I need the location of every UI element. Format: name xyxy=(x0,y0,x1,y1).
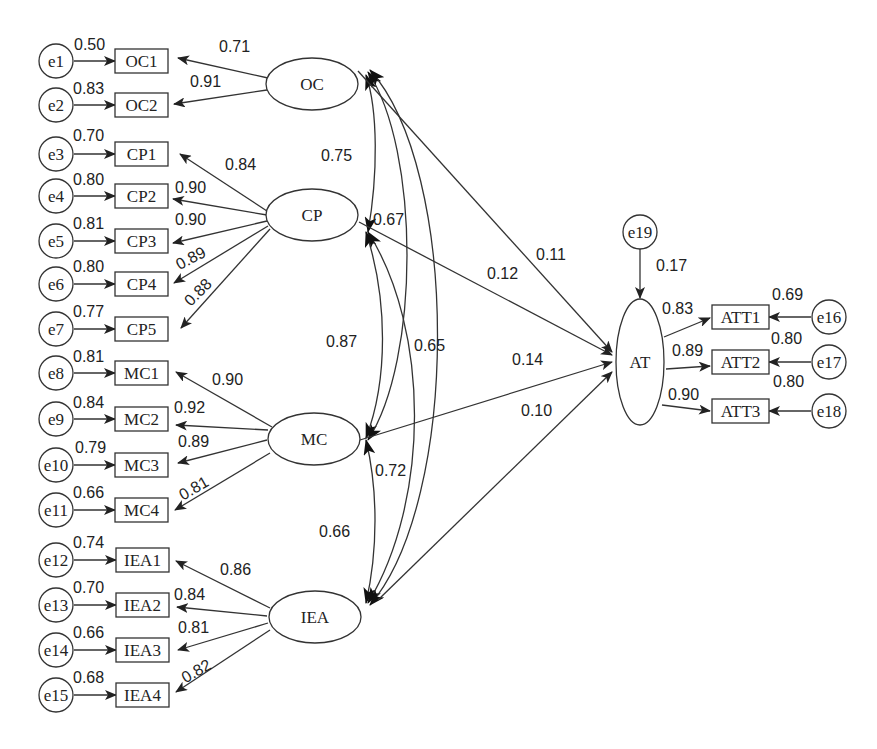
latent-cp: CP xyxy=(266,189,358,241)
error-node: e8 xyxy=(39,356,73,390)
error-node: e16 xyxy=(812,300,846,334)
loading-label: 0.82 xyxy=(179,656,215,686)
error-node: e9 xyxy=(39,402,73,436)
indicator-cp1: CP1 xyxy=(115,142,168,166)
loading-mc-mc2 xyxy=(176,425,268,430)
latent-iea: IEA xyxy=(269,591,361,643)
svg-text:ATT2: ATT2 xyxy=(721,353,761,372)
indicator-cp4: CP4 xyxy=(115,272,168,296)
indicators-right: ATT1 ATT2 ATT3 xyxy=(712,305,769,423)
corr-cp-mc xyxy=(366,232,383,438)
sem-diagram: e1 e2 e3 e4 e5 e6 e7 e8 e9 e10 e11 e12 e… xyxy=(0,0,877,749)
indicator-iea2: IEA2 xyxy=(116,593,169,617)
correlation-label: 0.65 xyxy=(414,337,445,354)
error-node: e5 xyxy=(39,224,73,258)
corr-oc-mc xyxy=(368,72,407,440)
svg-text:IEA2: IEA2 xyxy=(124,596,161,615)
indicator-oc1: OC1 xyxy=(115,49,168,73)
indicator-cp3: CP3 xyxy=(115,229,168,253)
r2-label: 0.84 xyxy=(73,394,104,411)
error-node: e12 xyxy=(39,543,73,577)
correlation-label: 0.75 xyxy=(321,147,352,164)
error-terms-left: e1 e2 e3 e4 e5 e6 e7 e8 e9 e10 e11 e12 e… xyxy=(39,44,73,712)
indicator-mc3: MC3 xyxy=(115,453,168,477)
loading-label: 0.90 xyxy=(175,211,206,228)
latent-oc: OC xyxy=(266,58,358,110)
error-node: e6 xyxy=(39,267,73,301)
loading-label: 0.89 xyxy=(178,433,209,450)
path-cp-at xyxy=(359,222,612,355)
loading-label: 0.81 xyxy=(178,619,209,636)
loading-labels-left: 0.71 0.91 0.84 0.90 0.90 0.89 0.88 0.90 … xyxy=(173,38,256,686)
loading-label: 0.89 xyxy=(173,243,209,273)
path-labels: 0.11 0.12 0.14 0.10 xyxy=(487,246,566,419)
r2-label: 0.70 xyxy=(73,127,104,144)
correlation-label: 0.66 xyxy=(319,523,350,540)
path-iea-at xyxy=(378,372,612,600)
r2-label: 0.81 xyxy=(73,348,104,365)
svg-text:e14: e14 xyxy=(44,641,69,660)
svg-text:e2: e2 xyxy=(48,96,64,115)
svg-text:CP3: CP3 xyxy=(127,232,156,251)
corr-oc-cp xyxy=(366,75,375,232)
svg-text:e3: e3 xyxy=(48,145,64,164)
r2-label: 0.74 xyxy=(73,534,104,551)
svg-text:e18: e18 xyxy=(817,402,842,421)
r2-label: 0.81 xyxy=(73,215,104,232)
svg-text:e1: e1 xyxy=(48,52,64,71)
loading-label: 0.88 xyxy=(181,275,215,309)
r2-label: 0.66 xyxy=(73,624,104,641)
error-node: e4 xyxy=(39,179,73,213)
loading-label: 0.91 xyxy=(190,73,221,90)
corr-mc-iea xyxy=(366,440,375,603)
r2-label: 0.77 xyxy=(73,303,104,320)
path-label: 0.10 xyxy=(521,402,552,419)
svg-text:MC2: MC2 xyxy=(124,410,159,429)
svg-text:e6: e6 xyxy=(48,275,64,294)
latent-mc: MC xyxy=(268,413,360,465)
indicator-att2: ATT2 xyxy=(712,350,769,374)
svg-text:e15: e15 xyxy=(44,686,69,705)
error-node: e15 xyxy=(39,678,73,712)
structural-paths xyxy=(358,71,640,600)
r2-label: 0.80 xyxy=(73,171,104,188)
path-label: 0.14 xyxy=(512,351,543,368)
svg-text:AT: AT xyxy=(630,353,651,372)
error-node: e3 xyxy=(39,137,73,171)
loading-at-att1 xyxy=(664,318,710,337)
error-node: e2 xyxy=(39,88,73,122)
indicator-att1: ATT1 xyxy=(712,305,769,329)
svg-text:IEA: IEA xyxy=(301,608,330,627)
r2-labels-left: 0.50 0.83 0.70 0.80 0.81 0.80 0.77 0.81 … xyxy=(73,36,106,686)
indicators-left: OC1 OC2 CP1 CP2 CP3 CP4 CP5 MC1 MC2 MC3 … xyxy=(115,49,169,707)
loading-label: 0.84 xyxy=(174,586,205,603)
loading-label: 0.90 xyxy=(175,179,206,196)
error-node: e10 xyxy=(39,448,73,482)
path-mc-at xyxy=(360,362,612,440)
error-node: e17 xyxy=(812,345,846,379)
svg-text:MC1: MC1 xyxy=(124,364,159,383)
path-label: 0.12 xyxy=(487,265,518,282)
svg-text:CP1: CP1 xyxy=(127,145,156,164)
error-node: e14 xyxy=(39,633,73,667)
r2-label: 0.83 xyxy=(73,80,104,97)
loading-at-att2 xyxy=(666,366,710,369)
r2-label: 0.79 xyxy=(75,439,106,456)
svg-text:e12: e12 xyxy=(44,551,69,570)
indicator-cp5: CP5 xyxy=(115,317,168,341)
error-arrows-left xyxy=(74,61,116,695)
indicator-mc1: MC1 xyxy=(115,361,168,385)
svg-text:IEA3: IEA3 xyxy=(124,641,161,660)
svg-text:e17: e17 xyxy=(817,353,842,372)
svg-text:e10: e10 xyxy=(44,456,69,475)
error-node: e11 xyxy=(39,493,73,527)
indicator-iea3: IEA3 xyxy=(116,638,169,662)
loading-iea-iea2 xyxy=(177,607,267,616)
error-node: e18 xyxy=(812,394,846,428)
r2-label: 0.17 xyxy=(656,257,687,274)
svg-text:e8: e8 xyxy=(48,364,64,383)
svg-text:CP4: CP4 xyxy=(127,275,157,294)
svg-text:OC: OC xyxy=(300,75,324,94)
svg-text:e13: e13 xyxy=(44,596,69,615)
svg-text:MC4: MC4 xyxy=(124,501,159,520)
